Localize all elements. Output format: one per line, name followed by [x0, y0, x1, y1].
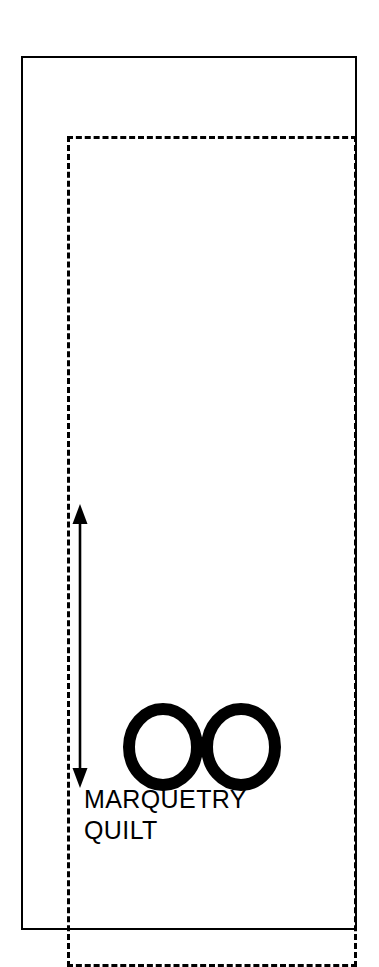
dimension-arrow [62, 502, 98, 790]
circle-o-right [207, 709, 275, 785]
oo-mark [118, 690, 288, 790]
caption-block: MARQUETRY QUILT [84, 784, 324, 846]
arrow-head-up [73, 504, 88, 524]
double-circle-oo-icon [118, 690, 288, 790]
caption-line-1: MARQUETRY [84, 784, 324, 815]
caption-line-2: QUILT [84, 815, 324, 846]
circle-o-left [129, 709, 197, 785]
double-headed-vertical-arrow-icon [62, 502, 98, 790]
